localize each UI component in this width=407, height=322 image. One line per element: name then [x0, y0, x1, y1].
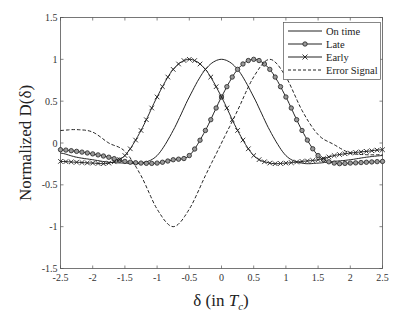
legend: On time Late Early Error Signal: [284, 23, 381, 80]
y-tick-label: -1: [49, 221, 57, 232]
circle-marker-icon: [182, 156, 186, 160]
circle-marker-icon: [343, 161, 347, 165]
circle-marker-icon: [348, 161, 352, 165]
circle-marker-icon: [284, 95, 288, 99]
x-tick-label: 0.5: [247, 272, 260, 283]
circle-marker-icon: [80, 150, 84, 154]
circle-marker-icon: [225, 84, 229, 88]
circle-marker-icon: [85, 151, 89, 155]
circle-marker-icon: [166, 159, 170, 163]
circle-marker-icon: [305, 138, 309, 142]
circle-marker-icon: [209, 117, 213, 121]
y-tick-label: 0: [53, 138, 58, 149]
svg-text:Early: Early: [326, 52, 349, 63]
circle-marker-icon: [311, 147, 315, 151]
circle-marker-icon: [74, 149, 78, 153]
circle-marker-icon: [107, 155, 111, 159]
circle-marker-icon: [160, 160, 164, 164]
y-axis-label: Normalized D(δ): [16, 85, 35, 201]
circle-marker-icon: [203, 128, 207, 132]
x-tick-label: 2: [348, 272, 353, 283]
circle-marker-icon: [353, 161, 357, 165]
circle-marker-icon: [289, 106, 293, 110]
svg-text:On time: On time: [326, 26, 360, 37]
x-tick-label: 0: [219, 272, 224, 283]
circle-marker-icon: [101, 154, 105, 158]
y-tick-label: -0.5: [42, 179, 58, 190]
circle-marker-icon: [150, 161, 154, 165]
circle-marker-icon: [257, 58, 261, 62]
circle-marker-icon: [268, 67, 272, 71]
circle-marker-icon: [155, 161, 159, 165]
circle-marker-icon: [133, 161, 137, 165]
circle-marker-icon: [176, 157, 180, 161]
chart: -2.5-2-1.5-1-0.500.511.522.5 1.510.50-0.…: [0, 0, 407, 322]
circle-marker-icon: [359, 160, 363, 164]
circle-marker-icon: [128, 160, 132, 164]
circle-marker-icon: [332, 161, 336, 165]
circle-marker-icon: [303, 42, 307, 46]
circle-marker-icon: [198, 138, 202, 142]
svg-text:Error Signal: Error Signal: [326, 65, 378, 76]
circle-marker-icon: [192, 147, 196, 151]
x-tick-label: 2.5: [376, 272, 389, 283]
circle-marker-icon: [316, 153, 320, 157]
circle-marker-icon: [246, 58, 250, 62]
circle-marker-icon: [380, 159, 384, 163]
circle-marker-icon: [375, 159, 379, 163]
circle-marker-icon: [187, 153, 191, 157]
x-axis-label: δ (in Tc): [193, 291, 248, 312]
circle-marker-icon: [144, 161, 148, 165]
y-tick-label: -1.5: [42, 263, 58, 274]
circle-marker-icon: [230, 75, 234, 79]
circle-marker-icon: [370, 160, 374, 164]
svg-text:Late: Late: [326, 39, 345, 50]
x-tick-label: -0.5: [181, 272, 197, 283]
circle-marker-icon: [58, 147, 62, 151]
circle-marker-icon: [64, 148, 68, 152]
circle-marker-icon: [69, 148, 73, 152]
x-tick-label: 1: [283, 272, 288, 283]
circle-marker-icon: [171, 158, 175, 162]
y-tick-label: 1: [53, 54, 58, 65]
circle-marker-icon: [214, 106, 218, 110]
x-tick-label: -2: [89, 272, 97, 283]
circle-marker-icon: [300, 128, 304, 132]
x-tick-label: -1.5: [117, 272, 133, 283]
circle-marker-icon: [252, 57, 256, 61]
circle-marker-icon: [91, 152, 95, 156]
circle-marker-icon: [294, 117, 298, 121]
circle-marker-icon: [337, 161, 341, 165]
x-tick-label: -1: [153, 272, 161, 283]
circle-marker-icon: [327, 160, 331, 164]
y-tick-label: 1.5: [45, 12, 58, 23]
circle-marker-icon: [273, 75, 277, 79]
circle-marker-icon: [96, 153, 100, 157]
circle-marker-icon: [139, 161, 143, 165]
circle-marker-icon: [235, 67, 239, 71]
circle-marker-icon: [364, 160, 368, 164]
circle-marker-icon: [123, 159, 127, 163]
x-tick-label: 1.5: [312, 272, 325, 283]
y-tick-label: 0.5: [45, 96, 58, 107]
circle-marker-icon: [278, 84, 282, 88]
circle-marker-icon: [241, 62, 245, 66]
